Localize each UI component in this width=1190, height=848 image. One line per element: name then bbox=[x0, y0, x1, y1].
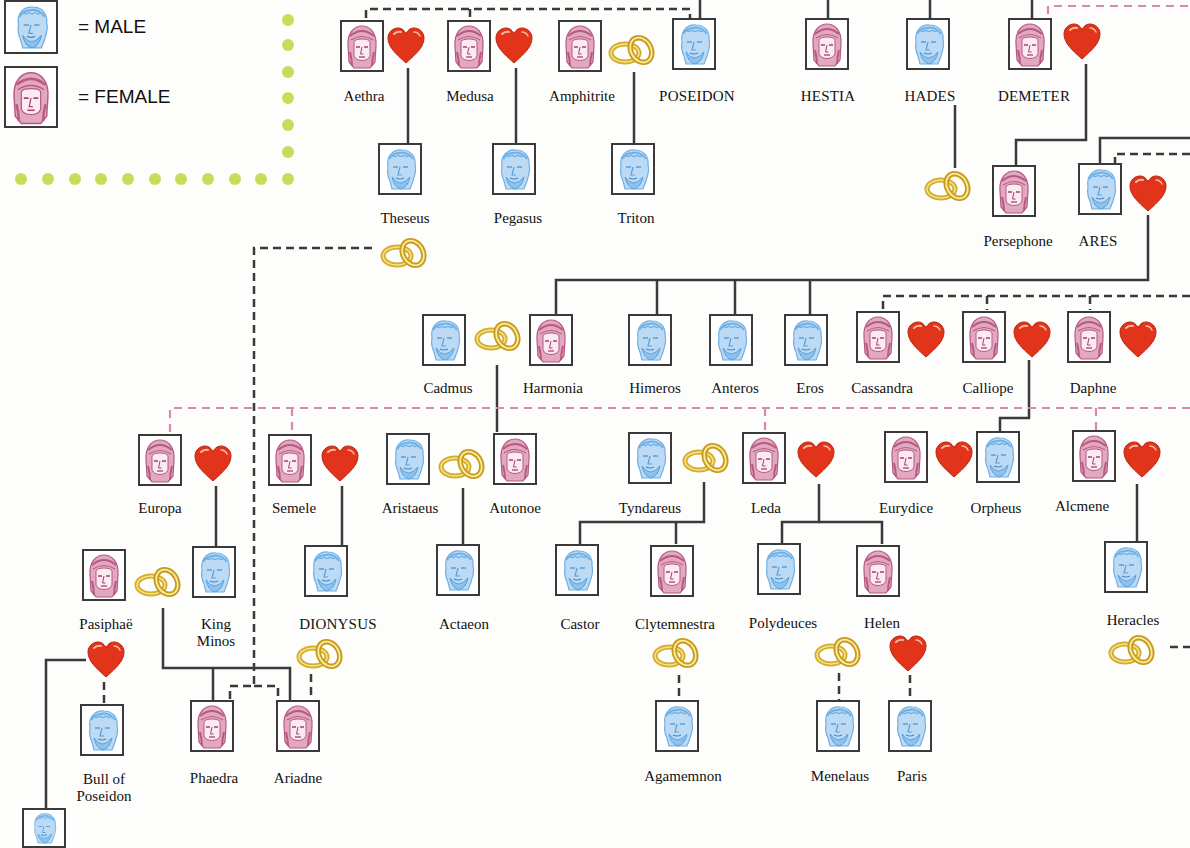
portrait-semele[interactable] bbox=[268, 434, 312, 486]
portrait-eros[interactable] bbox=[784, 314, 828, 366]
male-face-icon bbox=[388, 435, 428, 483]
portrait-pegasus[interactable] bbox=[492, 143, 536, 195]
female-face-icon bbox=[1074, 432, 1114, 480]
female-face-icon bbox=[807, 20, 847, 68]
heart-icon bbox=[320, 444, 360, 484]
male-face-icon bbox=[424, 316, 464, 364]
portrait-aethra[interactable] bbox=[340, 20, 384, 72]
male-face-icon bbox=[306, 547, 346, 595]
male-face-icon bbox=[24, 810, 64, 846]
female-face-icon bbox=[858, 313, 898, 361]
label-cassandra: Cassandra bbox=[851, 380, 913, 396]
portrait-medusa[interactable] bbox=[447, 20, 491, 72]
label-anteros: Anteros bbox=[711, 380, 759, 396]
male-face-icon bbox=[890, 702, 930, 750]
label-agamemnon: Agamemnon bbox=[644, 768, 721, 784]
label-tyndareus: Tyndareus bbox=[619, 500, 681, 516]
label-paris: Paris bbox=[897, 768, 927, 784]
female-face-icon bbox=[449, 22, 489, 70]
portrait-anteros[interactable] bbox=[709, 314, 753, 366]
portrait-amphitrite[interactable] bbox=[558, 20, 602, 72]
wedding-rings-icon bbox=[438, 448, 488, 482]
portrait-europa[interactable] bbox=[138, 434, 182, 486]
portrait-eurydice[interactable] bbox=[884, 431, 928, 483]
portrait-unnamed-partial[interactable] bbox=[22, 808, 66, 848]
portrait-orpheus[interactable] bbox=[976, 431, 1020, 483]
label-ariadne: Ariadne bbox=[274, 770, 322, 786]
wedding-rings-icon bbox=[814, 636, 864, 670]
portrait-hestia[interactable] bbox=[805, 18, 849, 70]
heart-icon bbox=[1122, 440, 1162, 480]
portrait-himeros[interactable] bbox=[628, 314, 672, 366]
portrait-daphne[interactable] bbox=[1067, 311, 1111, 363]
male-face-icon bbox=[438, 546, 478, 594]
portrait-poseidon[interactable] bbox=[672, 18, 716, 70]
wedding-rings-icon bbox=[296, 638, 346, 672]
female-face-icon bbox=[652, 547, 692, 595]
portrait-ares[interactable] bbox=[1078, 163, 1122, 215]
label-polydeuces: Polydeuces bbox=[749, 615, 817, 631]
portrait-tyndareus[interactable] bbox=[628, 432, 672, 484]
legend: = MALE = FEMALE bbox=[0, 0, 300, 190]
female-face-icon bbox=[744, 434, 784, 482]
portrait-leda[interactable] bbox=[742, 432, 786, 484]
heart-icon bbox=[1012, 320, 1052, 360]
portrait-agamemnon[interactable] bbox=[655, 700, 699, 752]
wedding-rings-icon bbox=[652, 637, 702, 671]
portrait-heracles[interactable] bbox=[1104, 541, 1148, 593]
portrait-clytemnestra[interactable] bbox=[650, 545, 694, 597]
portrait-menelaus[interactable] bbox=[816, 700, 860, 752]
portrait-paris[interactable] bbox=[888, 700, 932, 752]
wedding-rings-icon bbox=[924, 170, 974, 204]
wedding-rings-icon bbox=[474, 320, 524, 354]
portrait-cadmus[interactable] bbox=[422, 314, 466, 366]
label-harmonia: Harmonia bbox=[523, 380, 583, 396]
label-persephone: Persephone bbox=[983, 233, 1052, 249]
portrait-triton[interactable] bbox=[611, 143, 655, 195]
portrait-helen[interactable] bbox=[856, 545, 900, 597]
heart-icon bbox=[1118, 320, 1158, 360]
portrait-bull-of-poseidon[interactable] bbox=[80, 704, 124, 756]
portrait-pasiphae[interactable] bbox=[82, 549, 126, 601]
portrait-cassandra[interactable] bbox=[856, 311, 900, 363]
portrait-persephone[interactable] bbox=[992, 165, 1036, 217]
portrait-hades[interactable] bbox=[906, 18, 950, 70]
label-aristaeus: Aristaeus bbox=[382, 500, 439, 516]
male-face-icon bbox=[194, 548, 234, 596]
male-face-icon bbox=[630, 316, 670, 364]
heart-icon bbox=[1062, 22, 1102, 62]
portrait-dionysus[interactable] bbox=[304, 545, 348, 597]
portrait-calliope[interactable] bbox=[962, 311, 1006, 363]
heart-icon bbox=[934, 440, 974, 480]
male-face-icon bbox=[613, 145, 653, 193]
label-leda: Leda bbox=[751, 500, 781, 516]
portrait-alcmene[interactable] bbox=[1072, 430, 1116, 482]
portrait-demeter[interactable] bbox=[1008, 18, 1052, 70]
portrait-harmonia[interactable] bbox=[529, 314, 573, 366]
portrait-polydeuces[interactable] bbox=[757, 543, 801, 595]
label-autonoe: Autonoe bbox=[489, 500, 541, 516]
male-face-icon bbox=[786, 316, 826, 364]
portrait-castor[interactable] bbox=[555, 544, 599, 596]
label-cadmus: Cadmus bbox=[423, 380, 472, 396]
heart-icon bbox=[386, 26, 426, 66]
portrait-king-minos[interactable] bbox=[192, 546, 236, 598]
portrait-actaeon[interactable] bbox=[436, 544, 480, 596]
female-face-icon bbox=[886, 433, 926, 481]
portrait-autonoe[interactable] bbox=[493, 433, 537, 485]
female-face-icon bbox=[495, 435, 535, 483]
male-face-icon bbox=[494, 145, 534, 193]
male-face-icon bbox=[380, 145, 420, 193]
portrait-phaedra[interactable] bbox=[190, 700, 234, 752]
portrait-theseus[interactable] bbox=[378, 143, 422, 195]
label-king-minos-line1: King bbox=[201, 616, 231, 632]
label-actaeon: Actaeon bbox=[439, 616, 489, 632]
portrait-ariadne[interactable] bbox=[276, 700, 320, 752]
label-orpheus: Orpheus bbox=[971, 500, 1022, 516]
label-eros: Eros bbox=[796, 380, 824, 396]
label-helen: Helen bbox=[864, 615, 900, 631]
female-face-icon bbox=[278, 702, 318, 750]
label-demeter: DEMETER bbox=[998, 88, 1070, 104]
portrait-aristaeus[interactable] bbox=[386, 433, 430, 485]
label-ares: ARES bbox=[1078, 233, 1117, 249]
